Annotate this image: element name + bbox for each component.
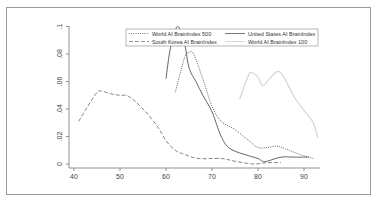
legend-label: World AI BrainIndex 500 [152, 31, 211, 37]
line-chart: 0.02.04.06.08.1 405060708090 World AI Br… [0, 0, 377, 204]
legend-label: World AI BrainIndex 100 [248, 39, 307, 45]
x-tick-label: 50 [116, 173, 124, 180]
series-line-world-ai-brainindex-100 [240, 71, 318, 138]
series-lines [79, 26, 318, 164]
x-tick-label: 40 [70, 173, 78, 180]
legend-label: United States AI BrainIndex [248, 31, 316, 37]
series-line-world-ai-brainindex-500 [175, 51, 313, 158]
series-line-south-korea-ai-brainindex [79, 91, 281, 164]
legend: World AI BrainIndex 500 United States AI… [126, 29, 318, 46]
axes: 0.02.04.06.08.1 405060708090 [56, 23, 320, 180]
y-tick-label: 0 [56, 162, 63, 166]
x-tick-label: 90 [300, 173, 308, 180]
x-tick-label: 80 [254, 173, 262, 180]
y-tick-label: .08 [56, 49, 63, 59]
y-tick-label: .1 [56, 23, 63, 29]
x-axis-ticks: 405060708090 [70, 168, 308, 180]
y-tick-label: .04 [56, 104, 63, 114]
y-axis-ticks: 0.02.04.06.08.1 [56, 23, 69, 165]
legend-label: South Korea AI BrainIndex [152, 39, 217, 45]
x-tick-label: 60 [162, 173, 170, 180]
x-tick-label: 70 [208, 173, 216, 180]
series-line-united-states-ai-brainindex [166, 26, 309, 161]
y-tick-label: .02 [56, 132, 63, 142]
y-tick-label: .06 [56, 77, 63, 87]
